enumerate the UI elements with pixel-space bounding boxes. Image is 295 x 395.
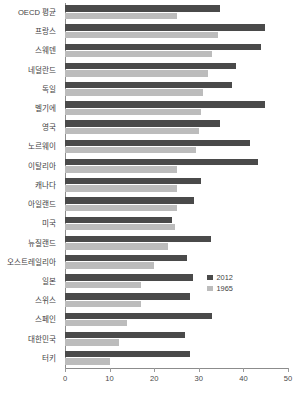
bar-2012[interactable]	[65, 63, 236, 69]
bar-1965[interactable]	[65, 70, 208, 76]
bar-2012[interactable]	[65, 24, 265, 30]
bar-group: 터키	[65, 349, 288, 368]
bar-2012[interactable]	[65, 236, 211, 242]
category-label: 터키	[0, 349, 56, 368]
legend-swatch-2012-icon	[207, 275, 213, 281]
category-label: 대한민국	[0, 330, 56, 349]
bar-group: 이탈리아	[65, 157, 288, 176]
category-label: 아일랜드	[0, 195, 56, 214]
bar-2012[interactable]	[65, 274, 193, 280]
bar-2012[interactable]	[65, 217, 172, 223]
bar-1965[interactable]	[65, 32, 218, 38]
x-axis-line	[65, 368, 289, 369]
bar-group: OECD 평균	[65, 3, 288, 22]
bar-group: 미국	[65, 214, 288, 233]
legend-label-1965: 1965	[217, 284, 233, 293]
bar-chart: OECD 평균프랑스스웨덴네덜란드독일벨기에영국노르웨이이탈리아캐나다아일랜드미…	[0, 0, 295, 395]
bar-group: 네덜란드	[65, 61, 288, 80]
x-tick-label: 30	[195, 374, 203, 383]
bar-1965[interactable]	[65, 205, 177, 211]
legend-item-1965[interactable]: 1965	[207, 283, 233, 294]
category-label: 오스트레일리아	[0, 253, 56, 272]
category-label: 미국	[0, 214, 56, 233]
category-label: 스웨덴	[0, 41, 56, 60]
category-label: 네덜란드	[0, 61, 56, 80]
category-label: 영국	[0, 118, 56, 137]
bar-group: 프랑스	[65, 22, 288, 41]
bar-group: 벨기에	[65, 99, 288, 118]
bar-1965[interactable]	[65, 320, 127, 326]
category-label: 프랑스	[0, 22, 56, 41]
bar-group: 스위스	[65, 291, 288, 310]
legend-item-2012[interactable]: 2012	[207, 272, 233, 283]
bar-1965[interactable]	[65, 243, 168, 249]
bar-group: 일본	[65, 272, 288, 291]
bar-1965[interactable]	[65, 13, 177, 19]
plot-area: OECD 평균프랑스스웨덴네덜란드독일벨기에영국노르웨이이탈리아캐나다아일랜드미…	[65, 3, 288, 368]
category-label: 캐나다	[0, 176, 56, 195]
category-label: 독일	[0, 80, 56, 99]
bar-group: 대한민국	[65, 330, 288, 349]
category-label: OECD 평균	[0, 3, 56, 22]
x-tick	[110, 368, 111, 372]
bar-1965[interactable]	[65, 358, 110, 364]
bar-2012[interactable]	[65, 351, 190, 357]
bar-1965[interactable]	[65, 89, 203, 95]
bar-group: 스페인	[65, 310, 288, 329]
x-tick-label: 40	[239, 374, 247, 383]
bar-2012[interactable]	[65, 140, 250, 146]
x-tick	[199, 368, 200, 372]
x-tick	[243, 368, 244, 372]
bar-group: 캐나다	[65, 176, 288, 195]
category-label: 노르웨이	[0, 137, 56, 156]
x-tick-label: 20	[150, 374, 158, 383]
legend-swatch-1965-icon	[207, 286, 213, 292]
bar-2012[interactable]	[65, 159, 258, 165]
chart-legend: 2012 1965	[207, 272, 233, 294]
bar-2012[interactable]	[65, 178, 201, 184]
x-tick-label: 0	[63, 374, 67, 383]
category-label: 일본	[0, 272, 56, 291]
x-tick-label: 50	[284, 374, 292, 383]
bar-group: 독일	[65, 80, 288, 99]
category-label: 스페인	[0, 310, 56, 329]
bar-1965[interactable]	[65, 185, 177, 191]
bar-2012[interactable]	[65, 293, 190, 299]
category-label: 벨기에	[0, 99, 56, 118]
bar-2012[interactable]	[65, 332, 185, 338]
x-tick	[154, 368, 155, 372]
x-tick-label: 10	[105, 374, 113, 383]
bar-1965[interactable]	[65, 51, 212, 57]
bar-1965[interactable]	[65, 109, 201, 115]
x-tick	[288, 368, 289, 372]
bar-group: 뉴질랜드	[65, 234, 288, 253]
legend-label-2012: 2012	[217, 273, 233, 282]
bar-1965[interactable]	[65, 339, 119, 345]
x-tick	[65, 368, 66, 372]
bar-1965[interactable]	[65, 147, 196, 153]
bar-1965[interactable]	[65, 224, 175, 230]
bar-2012[interactable]	[65, 255, 187, 261]
bar-2012[interactable]	[65, 120, 220, 126]
bar-2012[interactable]	[65, 313, 212, 319]
bar-group: 영국	[65, 118, 288, 137]
bar-group: 오스트레일리아	[65, 253, 288, 272]
bar-1965[interactable]	[65, 166, 177, 172]
bar-2012[interactable]	[65, 82, 232, 88]
bar-2012[interactable]	[65, 197, 194, 203]
category-label: 이탈리아	[0, 157, 56, 176]
bar-2012[interactable]	[65, 44, 261, 50]
bar-1965[interactable]	[65, 128, 199, 134]
bar-group: 노르웨이	[65, 137, 288, 156]
bar-group: 아일랜드	[65, 195, 288, 214]
bar-1965[interactable]	[65, 301, 141, 307]
bar-2012[interactable]	[65, 101, 265, 107]
bar-1965[interactable]	[65, 262, 154, 268]
bar-group: 스웨덴	[65, 41, 288, 60]
category-label: 뉴질랜드	[0, 234, 56, 253]
category-label: 스위스	[0, 291, 56, 310]
bar-2012[interactable]	[65, 5, 220, 11]
bar-1965[interactable]	[65, 282, 141, 288]
